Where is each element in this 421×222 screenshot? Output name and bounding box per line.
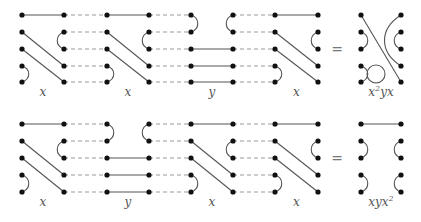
node-dot (358, 172, 363, 177)
node-dot (188, 29, 193, 34)
equals-sign: = (331, 41, 343, 57)
node-dot (104, 63, 109, 68)
generator-x: x (19, 121, 66, 209)
generator-x: x (272, 121, 320, 209)
node-dot (188, 172, 193, 177)
node-dot (188, 155, 193, 160)
factor-label: x (40, 85, 47, 99)
node-dot (19, 12, 24, 17)
node-dot (230, 79, 235, 84)
node-dot (398, 121, 403, 126)
node-dot (315, 79, 320, 84)
node-dot (19, 138, 24, 143)
node-dot (146, 138, 151, 143)
node-dot (230, 172, 235, 177)
node-dot (61, 79, 66, 84)
node-dot (19, 46, 24, 51)
factor-label: x (293, 195, 300, 209)
node-dot (398, 172, 403, 177)
node-dot (19, 29, 24, 34)
closed-loop (367, 65, 385, 83)
node-dot (358, 189, 363, 194)
node-dot (358, 29, 363, 34)
node-dot (315, 172, 320, 177)
node-dot (146, 155, 151, 160)
node-dot (146, 46, 151, 51)
generator-x: x (272, 12, 320, 99)
node-dot (61, 155, 66, 160)
node-dot (398, 46, 403, 51)
node-dot (61, 189, 66, 194)
node-dot (188, 12, 193, 17)
node-dot (272, 29, 277, 34)
node-dot (104, 12, 109, 17)
node-dot (230, 29, 235, 34)
factor-label: x (40, 195, 47, 209)
node-dot (61, 138, 66, 143)
node-dot (188, 79, 193, 84)
node-dot (61, 12, 66, 17)
generator-x: x (104, 12, 151, 99)
node-dot (272, 138, 277, 143)
node-dot (398, 189, 403, 194)
node-dot (358, 155, 363, 160)
node-dot (315, 189, 320, 194)
diagram-canvas: xxyx=x2yxxyxx=xyx2 (0, 0, 421, 222)
node-dot (146, 29, 151, 34)
generator-x: x (188, 121, 235, 209)
node-dot (104, 172, 109, 177)
node-dot (61, 46, 66, 51)
factor-label: y (124, 195, 132, 209)
node-dot (272, 46, 277, 51)
result-label: x2yx (368, 84, 394, 99)
node-dot (230, 138, 235, 143)
node-dot (272, 121, 277, 126)
equals-sign: = (331, 150, 343, 166)
node-dot (398, 79, 403, 84)
node-dot (104, 29, 109, 34)
generator-y: y (104, 121, 151, 209)
node-dot (146, 79, 151, 84)
node-dot (188, 138, 193, 143)
node-dot (358, 63, 363, 68)
node-dot (398, 29, 403, 34)
node-dot (188, 63, 193, 68)
node-dot (146, 189, 151, 194)
factor-label: x (209, 195, 216, 209)
node-dot (104, 79, 109, 84)
node-dot (272, 189, 277, 194)
node-dot (358, 138, 363, 143)
generator-x: x (19, 12, 66, 99)
node-dot (230, 63, 235, 68)
node-dot (104, 138, 109, 143)
node-dot (61, 63, 66, 68)
node-dot (104, 121, 109, 126)
node-dot (398, 138, 403, 143)
node-dot (398, 63, 403, 68)
node-dot (104, 46, 109, 51)
node-dot (398, 12, 403, 17)
node-dot (61, 172, 66, 177)
node-dot (19, 121, 24, 126)
node-dot (146, 172, 151, 177)
node-dot (358, 121, 363, 126)
node-dot (19, 79, 24, 84)
node-dot (272, 172, 277, 177)
node-dot (230, 155, 235, 160)
node-dot (61, 121, 66, 126)
node-dot (19, 172, 24, 177)
result-diagram: xyx2 (358, 121, 403, 209)
node-dot (230, 46, 235, 51)
node-dot (358, 12, 363, 17)
node-dot (146, 63, 151, 68)
node-dot (104, 155, 109, 160)
node-dot (230, 121, 235, 126)
node-dot (272, 79, 277, 84)
node-dot (188, 189, 193, 194)
node-dot (315, 46, 320, 51)
node-dot (19, 63, 24, 68)
node-dot (146, 12, 151, 17)
node-dot (188, 46, 193, 51)
generator-y: y (188, 12, 235, 99)
equation-row-2: xyxx=xyx2 (19, 121, 403, 209)
